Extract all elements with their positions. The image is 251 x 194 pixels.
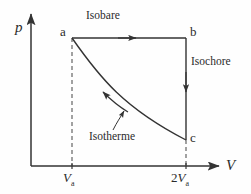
tick-label-2v-a: 2Va	[171, 171, 189, 188]
x-axis-label: V	[226, 158, 235, 173]
process-label-isotherme: Isotherme	[89, 131, 135, 143]
process-label-isochore: Isochore	[191, 56, 231, 68]
point-label-c: c	[190, 131, 196, 144]
process-label-isobare: Isobare	[86, 10, 120, 22]
tick-subscript-2v-a: a	[185, 179, 189, 188]
tick-symbol-v-a: V	[63, 170, 71, 185]
y-axis-label: p	[15, 20, 23, 35]
tick-subscript-v-a: a	[71, 179, 75, 188]
tick-label-v-a: Va	[63, 171, 75, 188]
point-label-a: a	[60, 25, 66, 38]
process-isotherme-arrow	[103, 92, 128, 112]
point-label-b: b	[190, 25, 197, 38]
isotherme-leader-line	[113, 111, 124, 130]
pv-diagram: p V a b c Isobare Isochore Isotherme Va …	[0, 0, 251, 194]
process-isotherme-curve	[72, 38, 186, 140]
diagram-canvas	[0, 0, 251, 194]
